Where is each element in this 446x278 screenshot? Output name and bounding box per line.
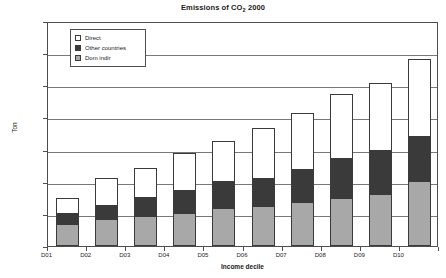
- chart-title-prefix: Emissions of CO: [181, 3, 243, 12]
- bar-segment-other-countries[interactable]: [56, 213, 79, 225]
- legend-item-dom-indir[interactable]: Dom indir: [75, 53, 141, 63]
- x-axis-tick-mark: [399, 247, 400, 251]
- x-axis-tick-label-d03: D03: [105, 252, 145, 258]
- x-axis-tick-mark: [164, 247, 165, 251]
- bar-segment-other-countries[interactable]: [95, 205, 118, 220]
- legend-item-direct[interactable]: Direct: [75, 33, 141, 43]
- bar-segment-dom-indir[interactable]: [330, 198, 353, 246]
- x-axis-tick-label-d07: D07: [261, 252, 301, 258]
- legend-swatch-icon: [75, 35, 81, 41]
- x-axis-tick-mark: [243, 247, 244, 251]
- x-axis-tick-mark: [203, 247, 204, 251]
- bar-segment-direct[interactable]: [291, 113, 314, 170]
- x-axis-tick-label-d06: D06: [222, 252, 262, 258]
- bar-segment-dom-indir[interactable]: [56, 224, 79, 246]
- bar-stack-d09[interactable]: [369, 21, 392, 246]
- bar-segment-direct[interactable]: [252, 128, 275, 179]
- bar-segment-other-countries[interactable]: [369, 150, 392, 194]
- co2-emissions-stacked-bar-chart: Emissions of CO2 2000 Ton 01000000200000…: [0, 0, 446, 278]
- x-axis-tick-label-d02: D02: [66, 252, 106, 258]
- x-axis-tick-mark: [360, 247, 361, 251]
- bar-segment-direct[interactable]: [408, 59, 431, 137]
- legend-item-label: Dom indir: [85, 54, 111, 62]
- bar-stack-d05[interactable]: [212, 21, 235, 246]
- bar-stack-d10[interactable]: [408, 21, 431, 246]
- bar-segment-dom-indir[interactable]: [212, 208, 235, 246]
- bar-segment-direct[interactable]: [369, 83, 392, 152]
- legend-swatch-icon: [75, 55, 81, 61]
- bar-segment-direct[interactable]: [330, 94, 353, 159]
- x-axis-tick-label-d01: D01: [27, 252, 67, 258]
- bar-segment-dom-indir[interactable]: [134, 216, 157, 246]
- bar-segment-dom-indir[interactable]: [408, 181, 431, 246]
- bar-segment-other-countries[interactable]: [134, 197, 157, 217]
- bar-segment-direct[interactable]: [95, 178, 118, 206]
- bar-stack-d07[interactable]: [291, 21, 314, 246]
- bar-segment-direct[interactable]: [212, 141, 235, 182]
- bar-segment-dom-indir[interactable]: [95, 219, 118, 246]
- x-axis-tick-mark: [47, 247, 48, 251]
- legend-item-label: Direct: [85, 34, 101, 42]
- bar-segment-other-countries[interactable]: [330, 158, 353, 199]
- chart-title-suffix: 2000: [246, 3, 265, 12]
- bar-segment-other-countries[interactable]: [291, 169, 314, 202]
- bar-segment-direct[interactable]: [173, 153, 196, 191]
- bar-segment-dom-indir[interactable]: [252, 206, 275, 246]
- bar-segment-dom-indir[interactable]: [173, 213, 196, 246]
- bar-segment-other-countries[interactable]: [408, 136, 431, 182]
- legend-item-label: Other countries: [85, 44, 126, 52]
- x-axis-tick-mark: [282, 247, 283, 251]
- legend-item-other-countries[interactable]: Other countries: [75, 43, 141, 53]
- x-axis-tick-label-d10: D10: [378, 252, 418, 258]
- x-axis-tick-mark: [125, 247, 126, 251]
- bar-segment-other-countries[interactable]: [173, 190, 196, 214]
- legend-items: DirectOther countriesDom indir: [75, 33, 141, 63]
- x-axis-tick-label-d09: D09: [339, 252, 379, 258]
- bar-stack-d04[interactable]: [173, 21, 196, 246]
- chart-title: Emissions of CO2 2000: [0, 3, 446, 13]
- bar-segment-direct[interactable]: [134, 168, 157, 198]
- bar-segment-dom-indir[interactable]: [369, 194, 392, 246]
- x-axis-tick-mark: [321, 247, 322, 251]
- bar-stack-d06[interactable]: [252, 21, 275, 246]
- bar-segment-direct[interactable]: [56, 198, 79, 213]
- bar-segment-other-countries[interactable]: [212, 181, 235, 209]
- y-axis-label: Ton: [11, 108, 18, 148]
- x-axis-tick-mark: [438, 247, 439, 251]
- bar-segment-other-countries[interactable]: [252, 178, 275, 208]
- legend-swatch-icon: [75, 45, 81, 51]
- x-axis-tick-label-d05: D05: [183, 252, 223, 258]
- bar-segment-dom-indir[interactable]: [291, 202, 314, 246]
- chart-legend: DirectOther countriesDom indir: [70, 29, 146, 67]
- x-axis-tick-mark: [86, 247, 87, 251]
- x-axis-tick-label-d04: D04: [144, 252, 184, 258]
- x-axis-label: Income decile: [47, 263, 438, 270]
- x-axis-tick-label-d08: D08: [300, 252, 340, 258]
- bar-stack-d08[interactable]: [330, 21, 353, 246]
